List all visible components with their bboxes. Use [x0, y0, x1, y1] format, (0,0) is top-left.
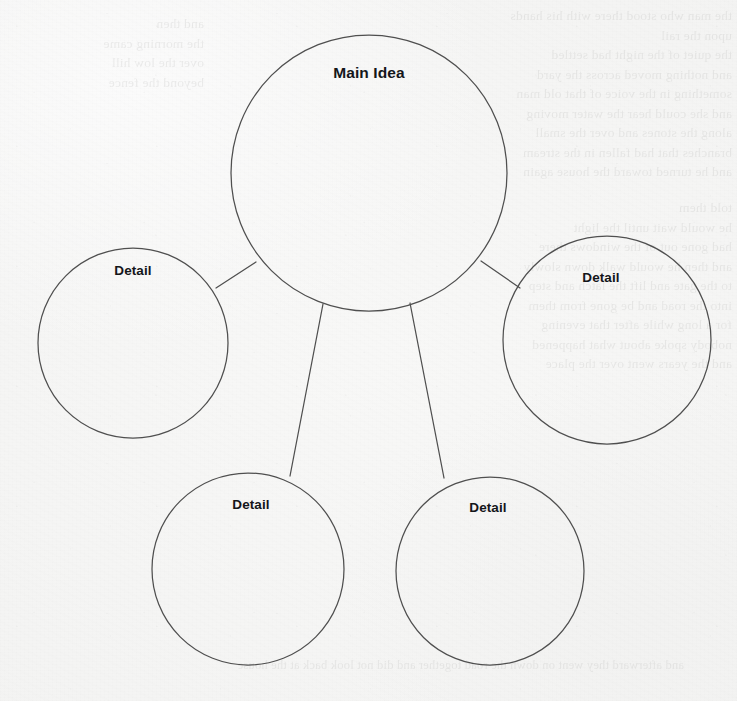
detail-circle-right[interactable] — [503, 236, 711, 444]
spider-map-diagram — [0, 0, 737, 701]
detail-label-bottom-left: Detail — [232, 497, 269, 512]
detail-label-left: Detail — [114, 263, 151, 278]
detail-label-right: Detail — [582, 270, 619, 285]
connector-main-to-left — [216, 262, 256, 288]
connector-main-to-right — [481, 261, 520, 288]
connector-main-to-bottom-right — [410, 303, 444, 478]
worksheet-page: the man who stood there with his hands u… — [0, 0, 737, 701]
main-idea-label: Main Idea — [333, 64, 405, 82]
connector-main-to-bottom-left — [290, 304, 323, 476]
detail-label-bottom-right: Detail — [469, 500, 506, 515]
